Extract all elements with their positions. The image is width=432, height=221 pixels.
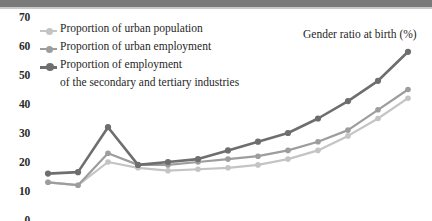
data-point (405, 95, 411, 101)
data-point (345, 98, 351, 104)
data-point (315, 139, 321, 145)
chart-plot (0, 0, 432, 221)
data-point (375, 116, 381, 122)
data-point (225, 165, 231, 171)
data-point (255, 153, 261, 159)
data-point (255, 139, 261, 145)
data-point (315, 115, 321, 121)
data-point (315, 148, 321, 154)
data-point (225, 156, 231, 162)
data-point (195, 166, 201, 172)
data-point (165, 168, 171, 174)
data-point (345, 133, 351, 139)
data-point (45, 180, 51, 186)
data-point (105, 124, 111, 130)
data-point (105, 159, 111, 165)
series-line (48, 52, 408, 174)
data-point (225, 147, 231, 153)
data-point (285, 156, 291, 162)
data-point (165, 159, 171, 165)
data-point (45, 171, 51, 177)
data-point (405, 87, 411, 93)
data-point (75, 169, 81, 175)
data-point (285, 148, 291, 154)
data-point (75, 182, 81, 188)
data-point (105, 151, 111, 157)
series-line (48, 98, 408, 185)
data-point (375, 107, 381, 113)
data-point (135, 162, 141, 168)
data-point (375, 78, 381, 84)
data-point (405, 49, 411, 55)
data-point (255, 162, 261, 168)
data-point (345, 127, 351, 133)
series-1 (45, 95, 411, 188)
data-point (195, 156, 201, 162)
data-point (285, 130, 291, 136)
